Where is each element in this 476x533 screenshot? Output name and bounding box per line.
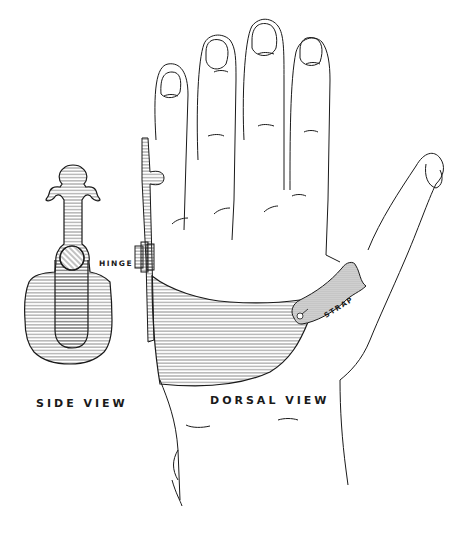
hinge-label: HINGE xyxy=(99,259,133,268)
side-view-label: SIDE VIEW xyxy=(36,397,128,410)
hand-splint-diagram: SIDE VIEW xyxy=(0,0,476,533)
dorsal-splint-plate xyxy=(152,276,309,386)
side-view-slot xyxy=(55,260,88,348)
dorsal-view-label: DORSAL VIEW xyxy=(210,394,329,407)
hand-outline xyxy=(155,19,444,506)
dorsal-hinge xyxy=(135,242,154,272)
